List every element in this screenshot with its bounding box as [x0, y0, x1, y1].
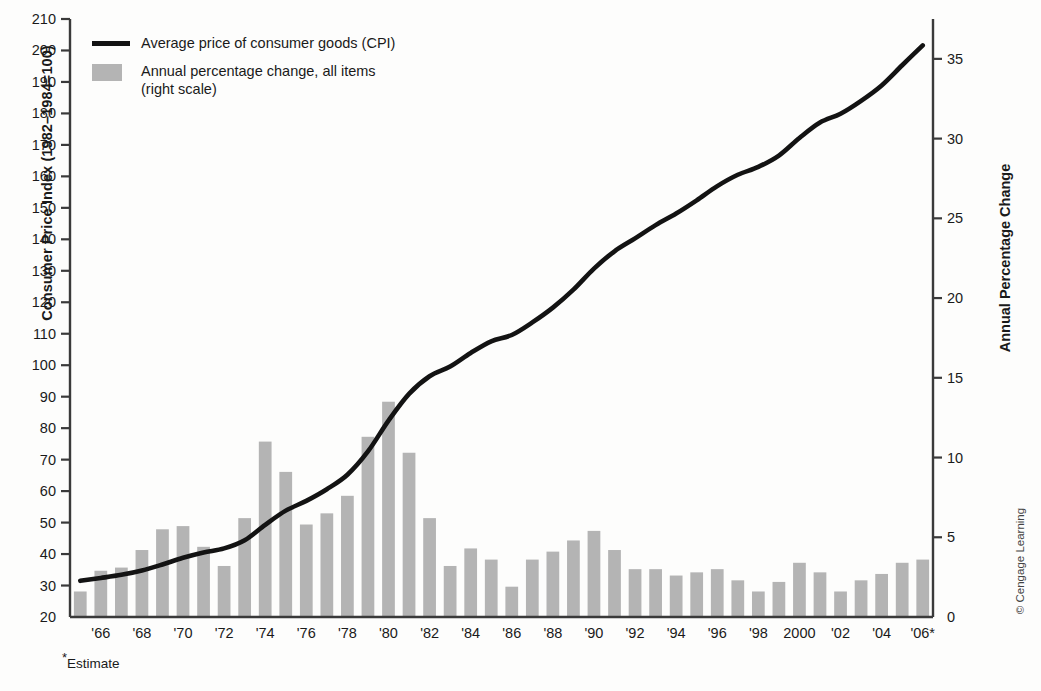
- left-tick-label-200: 200: [12, 43, 56, 58]
- bar-2004: [875, 574, 888, 617]
- bar-1982: [423, 518, 436, 617]
- bar-1991: [608, 550, 621, 617]
- bar-1990: [588, 531, 601, 617]
- x-tick-label-06: '06*: [893, 626, 953, 641]
- right-tick-label-10: 10: [947, 451, 987, 466]
- bar-1989: [567, 540, 580, 617]
- bar-1986: [505, 587, 518, 617]
- bar-1968: [136, 550, 149, 617]
- left-tick-label-40: 40: [12, 547, 56, 562]
- bar-2001: [814, 572, 827, 617]
- bar-1997: [731, 580, 744, 617]
- bar-1996: [711, 569, 724, 617]
- bar-1977: [320, 513, 333, 617]
- left-tick-label-60: 60: [12, 484, 56, 499]
- right-tick-label-30: 30: [947, 132, 987, 147]
- bar-1983: [444, 566, 457, 617]
- bar-1985: [485, 560, 498, 617]
- left-tick-label-70: 70: [12, 453, 56, 468]
- left-tick-label-210: 210: [12, 12, 56, 27]
- bar-2003: [855, 580, 868, 617]
- bar-2005: [896, 563, 909, 617]
- right-tick-label-0: 0: [947, 610, 987, 625]
- bar-1969: [156, 529, 169, 617]
- bar-1992: [629, 569, 642, 617]
- bar-1994: [670, 576, 683, 617]
- left-tick-label-80: 80: [12, 421, 56, 436]
- left-tick-label-110: 110: [12, 327, 56, 342]
- left-tick-label-50: 50: [12, 516, 56, 531]
- cpi-line-series: [80, 45, 922, 580]
- right-tick-label-15: 15: [947, 371, 987, 386]
- bar-1984: [464, 548, 477, 617]
- bar-1999: [773, 582, 786, 617]
- left-tick-label-100: 100: [12, 358, 56, 373]
- right-tick-label-20: 20: [947, 291, 987, 306]
- bar-1975: [279, 472, 292, 617]
- left-tick-label-120: 120: [12, 295, 56, 310]
- right-tick-label-25: 25: [947, 211, 987, 226]
- chart-plot-area: [0, 0, 1041, 691]
- bar-2006: [916, 560, 929, 617]
- bar-1965: [74, 591, 87, 617]
- left-tick-label-30: 30: [12, 579, 56, 594]
- bar-1978: [341, 496, 354, 617]
- left-tick-label-160: 160: [12, 169, 56, 184]
- bar-1980: [382, 402, 395, 617]
- left-tick-label-90: 90: [12, 390, 56, 405]
- right-tick-label-35: 35: [947, 52, 987, 67]
- bar-1988: [547, 552, 560, 617]
- bar-1970: [177, 526, 190, 617]
- left-tick-label-150: 150: [12, 201, 56, 216]
- bar-1995: [690, 572, 703, 617]
- bar-1971: [197, 547, 210, 617]
- left-tick-label-190: 190: [12, 75, 56, 90]
- bar-series: [74, 402, 929, 617]
- bar-2002: [834, 591, 847, 617]
- left-tick-label-170: 170: [12, 138, 56, 153]
- bar-2000: [793, 563, 806, 617]
- bar-1998: [752, 591, 765, 617]
- bar-1972: [218, 566, 231, 617]
- bar-1987: [526, 560, 539, 617]
- bar-1993: [649, 569, 662, 617]
- left-tick-label-140: 140: [12, 232, 56, 247]
- bar-1973: [238, 518, 251, 617]
- left-tick-label-20: 20: [12, 610, 56, 625]
- right-tick-label-5: 5: [947, 530, 987, 545]
- bar-1981: [403, 453, 416, 617]
- left-tick-label-130: 130: [12, 264, 56, 279]
- bar-1979: [362, 437, 375, 617]
- left-tick-label-180: 180: [12, 106, 56, 121]
- chart-root: Consumer Price Index (1982–1984=100) Ann…: [0, 0, 1041, 691]
- bar-1976: [300, 525, 313, 617]
